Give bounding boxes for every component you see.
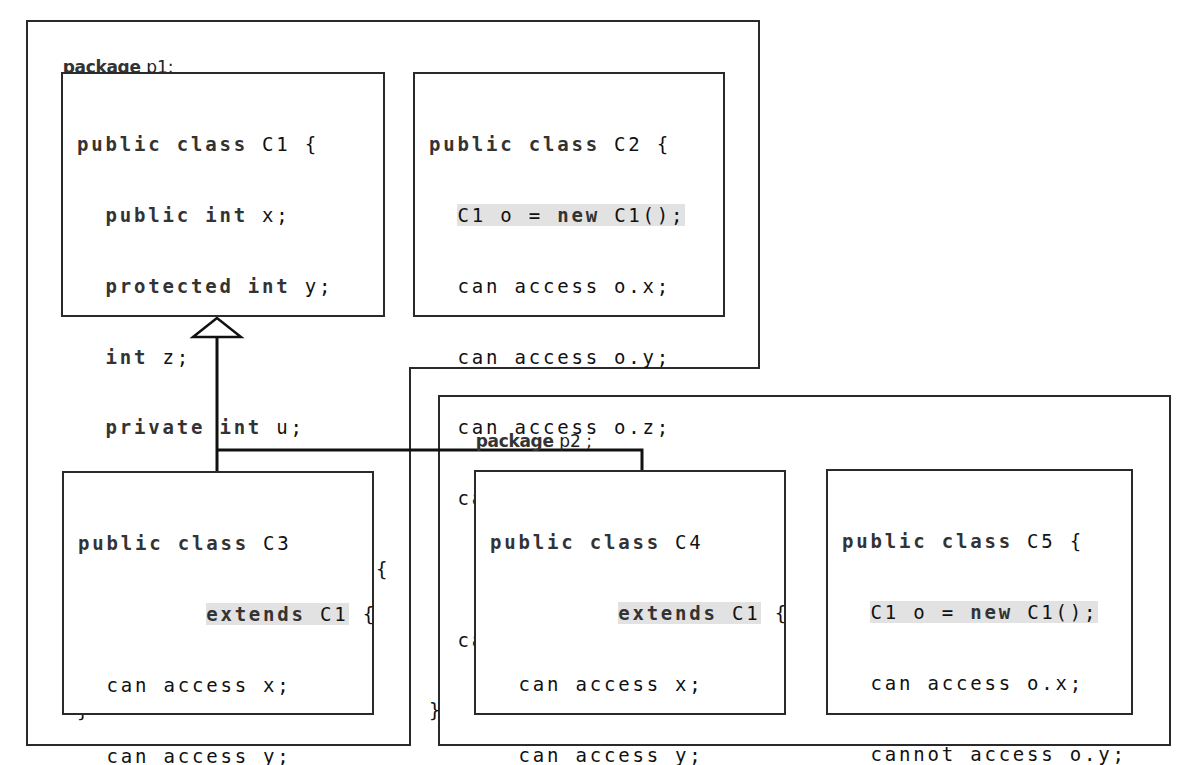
class-c5-code: public class C5 { C1 o = new C1(); can a… (842, 483, 1155, 765)
indent (77, 346, 105, 368)
superclass-name: C1 (718, 602, 761, 624)
code-line: int z; (77, 346, 390, 370)
class-c5-box: public class C5 { C1 o = new C1(); can a… (826, 469, 1133, 715)
class-c4-box: public class C4 extends C1 { can access … (474, 470, 786, 715)
class-keyword: public class (78, 532, 249, 554)
member: y; (291, 275, 334, 297)
class-header: public class C1 { (77, 133, 390, 157)
class-c4-code: public class C4 extends C1 { can access … (490, 484, 789, 765)
modifier: public int (105, 204, 247, 226)
access-line: can access o.z; (429, 416, 714, 440)
extends-clause: extends C1 { (78, 603, 377, 627)
new-keyword: new (557, 204, 600, 226)
code-line: protected int y; (77, 275, 390, 299)
class-name: C5 { (1013, 530, 1084, 552)
class-header: public class C2 { (429, 133, 714, 157)
class-c1-box: public class C1 { public int x; protecte… (61, 72, 385, 317)
indent (77, 204, 105, 226)
superclass-name: C1 (306, 603, 349, 625)
code-line: public int x; (77, 204, 390, 228)
class-name: C4 (661, 531, 704, 553)
indent (77, 275, 105, 297)
open-brace: { (761, 602, 789, 624)
decl-pre: C1 o = (457, 204, 557, 226)
access-line: can access o.x; (429, 275, 714, 299)
class-keyword: public class (429, 133, 600, 155)
extends-keyword: extends (618, 602, 718, 624)
class-c2-box: public class C2 { C1 o = new C1(); can a… (413, 72, 725, 317)
class-keyword: public class (490, 531, 661, 553)
access-line: cannot access o.y; (842, 743, 1155, 765)
member: x; (248, 204, 291, 226)
indent (77, 416, 105, 438)
access-line: can access y; (78, 745, 377, 765)
class-header: public class C3 (78, 532, 377, 556)
class-keyword: public class (842, 530, 1013, 552)
modifier: int (105, 346, 148, 368)
highlighted-extends: extends C1 (206, 603, 348, 625)
member: z; (148, 346, 191, 368)
class-name: C2 { (600, 133, 671, 155)
access-text: can access o.z; (457, 416, 671, 438)
access-line: can access o.x; (842, 672, 1155, 696)
class-header: public class C4 (490, 531, 789, 555)
access-text: can access x; (106, 674, 291, 696)
access-text: can access y; (518, 744, 703, 765)
class-name: C1 { (248, 133, 319, 155)
extends-clause: extends C1 { (490, 602, 789, 626)
class-name: C3 (249, 532, 292, 554)
access-text: can access o.x; (870, 672, 1084, 694)
access-text: can access x; (518, 673, 703, 695)
highlighted-declaration: C1 o = new C1(); (870, 601, 1098, 623)
decl-pre: C1 o = (870, 601, 970, 623)
member: u; (262, 416, 305, 438)
access-text: can access o.y; (457, 346, 671, 368)
modifier: protected int (105, 275, 290, 297)
class-c3-box: public class C3 extends C1 { can access … (62, 471, 374, 715)
access-line: can access x; (490, 673, 789, 697)
new-keyword: new (970, 601, 1013, 623)
class-keyword: public class (77, 133, 248, 155)
class-header: public class C5 { (842, 530, 1155, 554)
access-text: can access o.x; (457, 275, 671, 297)
open-brace: { (349, 603, 377, 625)
access-text: can access y; (106, 745, 291, 765)
decl-post: C1(); (1013, 601, 1098, 623)
object-declaration: C1 o = new C1(); (429, 204, 714, 228)
decl-post: C1(); (600, 204, 685, 226)
visibility-modifiers-diagram: package p1; package p2 ; public class C1… (0, 0, 1189, 765)
class-c3-code: public class C3 extends C1 { can access … (78, 485, 377, 765)
modifier: private int (105, 416, 262, 438)
extends-keyword: extends (206, 603, 306, 625)
access-line: can access x; (78, 674, 377, 698)
access-line: can access y; (490, 744, 789, 765)
object-declaration: C1 o = new C1(); (842, 601, 1155, 625)
code-line: private int u; (77, 416, 390, 440)
access-text: cannot access o.y; (870, 743, 1126, 765)
highlighted-declaration: C1 o = new C1(); (457, 204, 685, 226)
highlighted-extends: extends C1 (618, 602, 760, 624)
access-line: can access o.y; (429, 346, 714, 370)
